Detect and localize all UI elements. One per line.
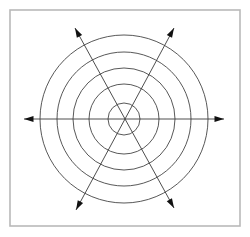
figure-container [0, 0, 250, 237]
concentric-circles-diagram [0, 0, 250, 237]
